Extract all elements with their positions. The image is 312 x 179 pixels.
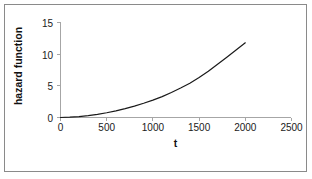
x-tick-label-1500: 1500	[179, 122, 219, 133]
x-axis-label: t	[60, 137, 291, 149]
y-tick-marks	[57, 23, 61, 118]
y-tick-label-5: 5	[31, 81, 53, 92]
x-tick-label-1000: 1000	[133, 122, 173, 133]
y-tick-label-10: 10	[31, 50, 53, 61]
hazard-function-curve	[61, 43, 246, 118]
y-axis-label: hazard function	[12, 16, 24, 116]
x-tick-label-2500: 2500	[272, 122, 312, 133]
x-tick-label-2000: 2000	[225, 122, 265, 133]
x-tick-marks	[61, 118, 292, 122]
chart-screenshot: 15 10 5 0 0 500 1000 1500 2000 2500 haza…	[0, 0, 312, 179]
x-tick-label-0: 0	[41, 122, 81, 133]
x-tick-label-500: 500	[87, 122, 127, 133]
y-tick-label-15: 15	[31, 18, 53, 29]
